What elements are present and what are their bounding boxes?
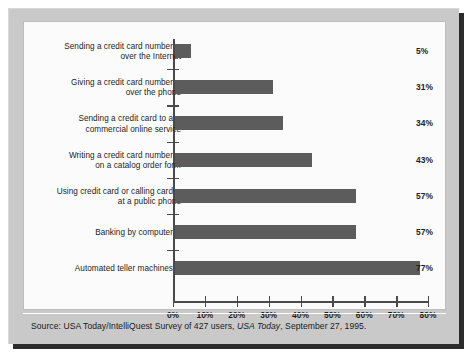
- bar-value-label: 5%: [416, 46, 428, 56]
- card-shadow-bottom: [13, 344, 464, 349]
- bar: [175, 261, 420, 275]
- bar: [175, 44, 191, 58]
- bar-value-label: 77%: [416, 263, 433, 273]
- bar-value-label: 43%: [416, 155, 433, 165]
- bar: [175, 116, 283, 130]
- x-axis-tick: [237, 296, 238, 307]
- bar: [175, 189, 357, 203]
- x-axis-tick: [173, 296, 174, 307]
- x-axis-tick-label: 40%: [292, 310, 309, 320]
- y-axis-tick: [167, 142, 179, 143]
- category-label-line: Writing a credit card number: [23, 151, 173, 161]
- x-axis-tick: [301, 296, 302, 307]
- bar: [175, 80, 274, 94]
- bar-value-label: 57%: [416, 227, 433, 237]
- category-label: Sending a credit card to acommercial onl…: [23, 114, 173, 134]
- chart-panel: Sending a credit card numberover the Int…: [23, 21, 446, 310]
- y-axis-tick: [167, 105, 179, 106]
- source-divider: [23, 313, 446, 314]
- y-axis-tick: [167, 250, 179, 251]
- category-label-line: Using credit card or calling card: [23, 187, 173, 197]
- category-label: Giving a credit card numberover the phon…: [23, 78, 173, 98]
- figure-card: Sending a credit card numberover the Int…: [8, 8, 459, 344]
- x-axis-tick-label: 0%: [167, 310, 179, 320]
- category-label-line: at a public phone: [23, 197, 181, 207]
- x-axis-tick-label: 30%: [260, 310, 277, 320]
- x-axis-tick: [332, 296, 333, 307]
- x-axis-tick-label: 60%: [356, 310, 373, 320]
- card-shadow-right: [459, 13, 464, 349]
- category-label: Using credit card or calling cardat a pu…: [23, 187, 173, 207]
- bar-value-label: 31%: [416, 82, 433, 92]
- x-axis-tick-label: 80%: [420, 310, 437, 320]
- category-label-line: Banking by computer: [23, 228, 173, 238]
- category-label-line: commercial online service: [23, 125, 181, 135]
- bar: [175, 153, 312, 167]
- y-axis-tick: [167, 214, 179, 215]
- category-label-line: Sending a credit card number: [23, 42, 173, 52]
- y-axis-tick: [167, 69, 179, 70]
- x-axis-tick-label: 20%: [228, 310, 245, 320]
- category-label-line: over the phone: [23, 88, 181, 98]
- category-label: Banking by computer: [23, 228, 173, 238]
- x-axis-tick: [269, 296, 270, 307]
- bar: [175, 225, 357, 239]
- bar-value-label: 57%: [416, 191, 433, 201]
- category-label: Automated teller machines: [23, 264, 173, 274]
- bar-value-label: 34%: [416, 118, 433, 128]
- source-suffix: , September 27, 1995.: [280, 321, 366, 331]
- category-label-line: Sending a credit card to a: [23, 114, 173, 124]
- x-axis-tick: [205, 296, 206, 307]
- category-label-line: Giving a credit card number: [23, 78, 173, 88]
- category-label-line: on a catalog order form: [23, 161, 181, 171]
- x-axis-tick-label: 70%: [388, 310, 405, 320]
- source-publication: USA Today: [237, 321, 280, 331]
- horizontal-bar-chart: Sending a credit card numberover the Int…: [24, 22, 447, 311]
- y-axis-tick: [167, 178, 179, 179]
- category-label: Writing a credit card numberon a catalog…: [23, 151, 173, 171]
- source-note: Source: USA Today/IntelliQuest Survey of…: [31, 321, 366, 331]
- x-axis-tick: [364, 296, 365, 307]
- x-axis-tick-label: 50%: [324, 310, 341, 320]
- x-axis-tick-label: 10%: [196, 310, 213, 320]
- category-label-line: Automated teller machines: [23, 264, 173, 274]
- category-label: Sending a credit card numberover the Int…: [23, 42, 173, 62]
- x-axis-tick: [428, 296, 429, 307]
- x-axis-tick: [396, 296, 397, 307]
- source-prefix: Source: USA Today/IntelliQuest Survey of…: [31, 321, 237, 331]
- category-label-line: over the Internet: [23, 52, 181, 62]
